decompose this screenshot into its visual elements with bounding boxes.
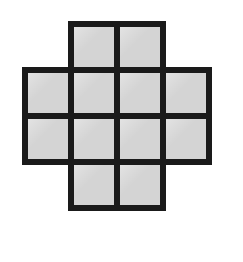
- cell-r2c1: [22, 67, 74, 119]
- cell-r4c2: [68, 159, 120, 211]
- cell-r3c3: [114, 113, 166, 165]
- cell-r2c4: [160, 67, 212, 119]
- cell-r3c2: [68, 113, 120, 165]
- cell-r2c3: [114, 67, 166, 119]
- cell-r4c3: [114, 159, 166, 211]
- cell-r3c4: [160, 113, 212, 165]
- figure-canvas: Cross-shaped grid of squares A plus / cr…: [0, 0, 243, 262]
- cell-r1c3: [114, 21, 166, 73]
- polyomino-grid: [0, 0, 243, 262]
- cell-r2c2: [68, 67, 120, 119]
- cell-r3c1: [22, 113, 74, 165]
- cell-r1c2: [68, 21, 120, 73]
